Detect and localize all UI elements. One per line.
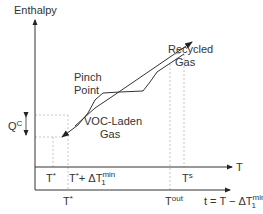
y-axis-label: Enthalpy <box>14 4 57 16</box>
tick-lower-t-star: T* <box>63 194 73 207</box>
recycled-gas-label-2: Gas <box>175 56 196 68</box>
tick-t-s: Ts <box>182 171 193 184</box>
tick-t-star: T* <box>46 171 56 184</box>
shifted-axis-label: t = T − ΔTmin1 <box>204 193 263 210</box>
x-axis-label: T <box>236 161 243 173</box>
pinch-label-2: Point <box>74 84 99 96</box>
voc-gas-label-2: Gas <box>100 128 121 140</box>
heat-label: QC <box>8 119 23 132</box>
tick-t-out: Tout <box>165 194 184 207</box>
voc-gas-label-1: VOC-Laden <box>84 115 142 127</box>
tick-t-star-plus-dtmin: T*+ ΔTmin1 <box>69 170 115 187</box>
pinch-label-1: Pinch <box>74 71 102 83</box>
recycled-gas-label-1: Recycled <box>168 43 213 55</box>
enthalpy-temperature-diagram: Enthalpy T Recycled Gas Pinch Point VOC-… <box>0 0 263 214</box>
